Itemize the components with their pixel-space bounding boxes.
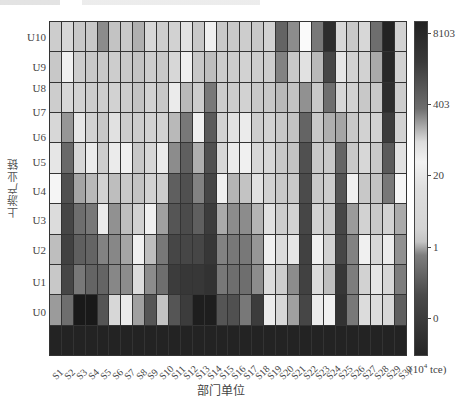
heatmap-cell <box>324 143 335 172</box>
heatmap-cell <box>228 235 239 264</box>
heatmap-cell <box>121 52 132 81</box>
heatmap-cell <box>62 83 73 112</box>
heatmap-cell <box>324 83 335 112</box>
heatmap-cell <box>359 22 370 51</box>
heatmap-cell <box>228 83 239 112</box>
heatmap-cell <box>288 143 299 172</box>
heatmap-cell <box>264 22 275 51</box>
heatmap-cell <box>312 265 323 294</box>
heatmap-cell <box>300 235 311 264</box>
heatmap-cell <box>157 174 168 203</box>
heatmap-cell <box>312 326 323 355</box>
heatmap-cell <box>359 174 370 203</box>
heatmap-cell <box>193 113 204 142</box>
heatmap-cell <box>98 295 109 324</box>
heatmap-cell <box>133 22 144 51</box>
heatmap-cell <box>121 174 132 203</box>
heatmap-cell <box>300 295 311 324</box>
heatmap-cell <box>109 326 120 355</box>
colorbar-tick-mark <box>428 318 431 319</box>
heatmap-cell <box>371 113 382 142</box>
heatmap-cell <box>240 326 251 355</box>
heatmap-cell <box>228 22 239 51</box>
heatmap-cell <box>240 22 251 51</box>
heatmap-cell <box>157 295 168 324</box>
heatmap-cell <box>228 204 239 233</box>
heatmap-cell <box>347 52 358 81</box>
heatmap-cell <box>288 326 299 355</box>
heatmap-cell <box>74 113 85 142</box>
heatmap-cell <box>324 174 335 203</box>
heatmap-cell <box>109 22 120 51</box>
heatmap-cell <box>62 326 73 355</box>
heatmap-cell <box>62 143 73 172</box>
y-tick-label: U2 <box>33 244 46 256</box>
heatmap-cell <box>62 265 73 294</box>
heatmap-cell <box>336 326 347 355</box>
heatmap-cell <box>98 204 109 233</box>
heatmap-cell <box>62 22 73 51</box>
heatmap-cell <box>205 22 216 51</box>
heatmap-cell <box>181 143 192 172</box>
heatmap-cell <box>169 265 180 294</box>
heatmap-cell <box>240 52 251 81</box>
heatmap-cell <box>157 265 168 294</box>
heatmap-cell <box>62 52 73 81</box>
heatmap-cell <box>133 235 144 264</box>
colorbar-tick-mark <box>428 33 431 34</box>
heatmap-cell <box>395 143 406 172</box>
heatmap-cell <box>98 22 109 51</box>
y-tick-label: U3 <box>33 214 46 226</box>
heatmap-cell <box>181 265 192 294</box>
heatmap-cell <box>288 174 299 203</box>
heatmap-cell <box>228 52 239 81</box>
heatmap-cell <box>121 22 132 51</box>
heatmap-cell <box>98 52 109 81</box>
heatmap-cell <box>276 52 287 81</box>
heatmap-cell <box>217 113 228 142</box>
heatmap-cell <box>264 265 275 294</box>
heatmap-cell <box>157 326 168 355</box>
heatmap-cell <box>371 204 382 233</box>
heatmap-cell <box>288 22 299 51</box>
heatmap-cell <box>312 22 323 51</box>
heatmap-cell <box>98 174 109 203</box>
heatmap-cell <box>300 174 311 203</box>
heatmap-cell <box>193 204 204 233</box>
heatmap-cell <box>383 174 394 203</box>
heatmap-cell <box>74 235 85 264</box>
y-tick-label: U1 <box>33 276 46 288</box>
y-tick-label: U5 <box>33 156 46 168</box>
heatmap-cell <box>169 235 180 264</box>
heatmap-cell <box>264 204 275 233</box>
heatmap-cell <box>252 52 263 81</box>
heatmap-cell <box>62 113 73 142</box>
heatmap-cell <box>240 83 251 112</box>
heatmap-cell <box>371 235 382 264</box>
heatmap-cell <box>169 143 180 172</box>
heatmap-cell <box>371 295 382 324</box>
heatmap-cell <box>228 113 239 142</box>
heatmap-cell <box>98 326 109 355</box>
heatmap-cell <box>359 143 370 172</box>
y-tick-label: U7 <box>33 106 46 118</box>
heatmap-cell <box>145 235 156 264</box>
heatmap-cell <box>121 235 132 264</box>
heatmap-cell <box>193 52 204 81</box>
heatmap-cell <box>217 83 228 112</box>
heatmap-cell <box>276 113 287 142</box>
heatmap-cell <box>288 265 299 294</box>
heatmap-cell <box>252 295 263 324</box>
heatmap-cell <box>181 235 192 264</box>
heatmap-cell <box>133 174 144 203</box>
colorbar-tick-label: 1 <box>433 241 439 253</box>
heatmap-cell <box>395 113 406 142</box>
heatmap-cell <box>347 143 358 172</box>
heatmap-cell <box>312 204 323 233</box>
heatmap-cell <box>157 143 168 172</box>
heatmap-cell <box>169 326 180 355</box>
heatmap-cell <box>312 83 323 112</box>
heatmap-cell <box>193 326 204 355</box>
heatmap-cell <box>371 143 382 172</box>
heatmap-cell <box>86 235 97 264</box>
